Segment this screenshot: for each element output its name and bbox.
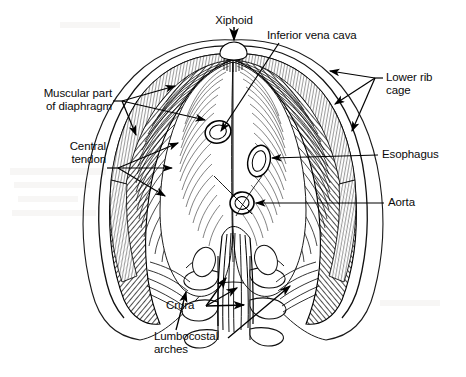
label-central-tendon-line2: tendon [26, 153, 106, 166]
label-lower-rib-cage-line1: Lower rib [386, 71, 432, 84]
label-esophagus: Esophagus [382, 148, 439, 161]
label-lumbocostal-arches-line1: Lumbocostal [154, 330, 218, 343]
label-xiphoid: Xiphoid [200, 14, 268, 27]
label-inferior-vena-cava: Inferior vena cava [267, 29, 357, 42]
label-central-tendon-line1: Central [26, 140, 106, 153]
diaphragm-illustration [0, 0, 466, 377]
label-crura: Crura [166, 299, 194, 312]
label-muscular-part-line1: Muscular part [16, 87, 112, 100]
diaphragm-figure: Xiphoid Inferior vena cava Lower rib cag… [0, 0, 466, 377]
label-muscular-part-line2: of diaphragm [16, 100, 112, 113]
label-aorta: Aorta [388, 196, 415, 209]
label-lower-rib-cage-line2: cage [386, 84, 411, 97]
label-lumbocostal-arches-line2: arches [154, 343, 188, 356]
